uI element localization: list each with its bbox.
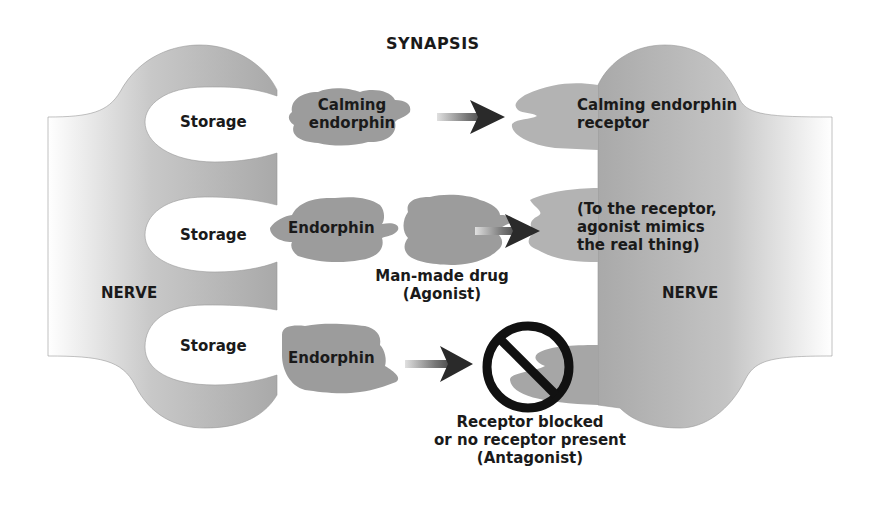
left-nerve-label: NERVE: [101, 284, 157, 302]
agonist-receptor-label: (To the receptor, agonist mimics the rea…: [577, 200, 717, 254]
calming-receptor-line1: Calming endorphin: [577, 96, 737, 114]
arrow-row1: [437, 100, 505, 134]
antagonist-line1: Receptor blocked: [420, 413, 640, 431]
arrow-row3: [405, 346, 473, 382]
agonist-drug-label: Man-made drug (Agonist): [372, 267, 512, 303]
calming-endorphin-line1: Calming: [296, 96, 408, 114]
antagonist-line3: (Antagonist): [420, 449, 640, 467]
calming-endorphin-line2: endorphin: [296, 114, 408, 132]
endorphin-label-row3: Endorphin: [288, 349, 375, 367]
calming-receptor-label: Calming endorphin receptor: [577, 96, 737, 132]
storage-label-3: Storage: [180, 337, 247, 355]
storage-label-1: Storage: [180, 113, 247, 131]
diagram-title: SYNAPSIS: [386, 35, 480, 53]
agonist-receptor-line3: the real thing): [577, 236, 717, 254]
calming-endorphin-label: Calming endorphin: [296, 96, 408, 132]
agonist-receptor-line1: (To the receptor,: [577, 200, 717, 218]
storage-label-2: Storage: [180, 226, 247, 244]
agonist-receptor-line2: agonist mimics: [577, 218, 717, 236]
right-nerve-label: NERVE: [662, 284, 718, 302]
calming-receptor-line2: receptor: [577, 114, 737, 132]
drug-label-line1: Man-made drug: [372, 267, 512, 285]
endorphin-label-row2: Endorphin: [288, 219, 375, 237]
drug-label-line2: (Agonist): [372, 285, 512, 303]
antagonist-line2: or no receptor present: [420, 431, 640, 449]
antagonist-label: Receptor blocked or no receptor present …: [420, 413, 640, 467]
